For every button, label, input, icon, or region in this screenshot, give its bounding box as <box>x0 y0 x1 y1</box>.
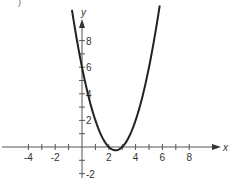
x-tick-label: 2 <box>106 152 112 163</box>
y-axis-arrow-icon <box>79 19 85 28</box>
y-axis: -22468 <box>79 19 95 180</box>
series-line <box>72 5 160 150</box>
x-axis-label: x <box>222 142 229 153</box>
x-tick-label: -2 <box>51 152 60 163</box>
y-axis-label: y <box>80 7 87 18</box>
y-tick-label: 6 <box>86 62 92 73</box>
cropped-caption-fragment: ) <box>18 0 21 7</box>
parabola-curve <box>72 5 160 150</box>
y-tick-label: -2 <box>86 169 95 180</box>
x-tick-label: 8 <box>186 152 192 163</box>
x-tick-label: -4 <box>24 152 33 163</box>
x-axis: -4-22468 <box>2 144 221 163</box>
y-tick-label: 2 <box>86 115 92 126</box>
x-tick-label: 6 <box>160 152 166 163</box>
x-axis-arrow-icon <box>212 144 221 150</box>
x-tick-label: 4 <box>133 152 139 163</box>
parabola-chart: ) -4-22468 -22468 x y <box>0 0 231 182</box>
y-tick-label: 8 <box>86 36 92 47</box>
